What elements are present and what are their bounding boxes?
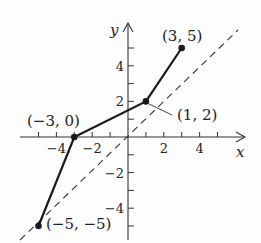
vertex-dot (143, 98, 150, 105)
vertex-dot (71, 134, 78, 141)
label-point-3-5: (3, 5) (162, 27, 202, 45)
y-tick-label: −2 (105, 166, 124, 181)
leader-line-1-2 (149, 104, 172, 115)
label-point-neg3-0: (−3, 0) (27, 112, 80, 130)
y-tick-label: −4 (105, 201, 124, 216)
vertex-dot (178, 45, 185, 52)
x-tick-label: −4 (47, 141, 66, 156)
label-point-1-2: (1, 2) (177, 106, 217, 124)
y-tick-label: 2 (116, 94, 124, 109)
label-point-neg5-neg5: (−5, −5) (46, 215, 111, 233)
vertex-dot (35, 223, 42, 230)
x-tick-label: −2 (83, 141, 102, 156)
graph-figure: −4−22442−2−4 x y (3, 5) (1, 2) (−3, 0) (… (0, 0, 261, 243)
x-axis-label: x (236, 143, 245, 161)
x-tick-label: 4 (195, 141, 203, 156)
coordinate-plane: −4−22442−2−4 x y (3, 5) (1, 2) (−3, 0) (… (0, 0, 261, 243)
x-tick-label: 2 (160, 141, 168, 156)
y-tick-label: 4 (116, 59, 124, 74)
y-axis-label: y (109, 21, 119, 39)
